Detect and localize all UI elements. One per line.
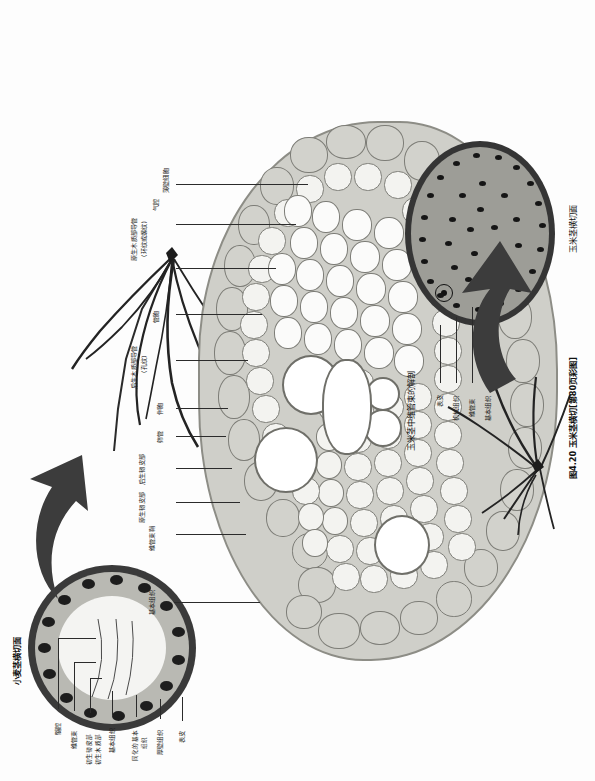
- cell: [268, 253, 296, 285]
- cell: [366, 125, 404, 161]
- cell: [242, 283, 270, 311]
- wheat-plant-illustration: [22, 239, 212, 559]
- cell: [342, 209, 372, 241]
- bundle-dot: [495, 155, 502, 160]
- cell: [326, 125, 366, 159]
- bundle-dot: [421, 259, 428, 264]
- cell: [252, 395, 280, 423]
- cell: [324, 163, 352, 191]
- bundle-dot: [513, 165, 520, 170]
- leader-line: [176, 268, 276, 269]
- wheat-vascular-bundle: [38, 643, 51, 653]
- bundle-dot: [471, 251, 478, 256]
- cell: [274, 317, 302, 349]
- bundle-dot: [453, 161, 460, 166]
- bundle-dot: [515, 243, 522, 248]
- wheat-vascular-bundle: [172, 627, 185, 637]
- cell: [320, 233, 348, 265]
- leader-line: [160, 699, 161, 719]
- wheat-inset-title: 小麦茎横切面: [10, 637, 22, 685]
- cell: [242, 339, 270, 367]
- maize-label-metaphloem: 后生韧皮部: [138, 454, 145, 485]
- cell: [290, 137, 328, 173]
- bundle-dot: [437, 175, 444, 180]
- bundle-dot: [427, 193, 434, 198]
- rotated-plate: 小麦茎横切面: [0, 0, 595, 781]
- cell: [346, 481, 374, 509]
- metaxylem-vessel-large: [254, 427, 318, 493]
- cell: [356, 273, 386, 305]
- wheat-label-sclerenchyma: 厚壁组织: [156, 730, 163, 755]
- cell: [318, 613, 360, 649]
- cell: [350, 509, 378, 537]
- maize-label-parenchyma: 薄壁细胞: [162, 168, 169, 193]
- bundle-dot: [467, 227, 474, 232]
- figure-page: 小麦茎横切面: [0, 0, 595, 781]
- bundle-dot: [535, 201, 542, 206]
- wheat-vascular-bundle: [82, 579, 95, 589]
- bundle-dot: [529, 269, 536, 274]
- bundle-dot: [459, 193, 466, 198]
- leader-line: [176, 314, 262, 315]
- leader-line: [90, 679, 91, 713]
- cell: [258, 227, 286, 255]
- wheat-vascular-bundle: [112, 711, 125, 721]
- cell: [326, 535, 354, 563]
- cell: [316, 451, 342, 479]
- cell: [350, 241, 380, 273]
- cell: [290, 227, 318, 259]
- cell: [326, 265, 354, 297]
- cell: [284, 195, 312, 227]
- cell: [240, 311, 268, 339]
- wheat-label-protoxylem: 初生木质部: [95, 734, 102, 765]
- bundle-dot: [419, 237, 426, 242]
- cell: [374, 449, 402, 477]
- air-cavity: [322, 359, 372, 455]
- leader-line: [176, 534, 246, 535]
- wheat-vascular-bundle: [42, 617, 55, 627]
- bundle-dot: [449, 217, 456, 222]
- wheat-vascular-bundle: [110, 575, 123, 585]
- figure-caption: 图4.20 玉米茎横切[第80页彩图]: [566, 357, 578, 479]
- bundle-dot: [427, 279, 434, 284]
- wheat-vascular-bundle: [60, 693, 73, 703]
- bundle-dot: [501, 193, 508, 198]
- maize-label-protoxylem-vessel: 原生木质部导管: [130, 218, 137, 261]
- wheat-label-ground-tissue: 基本组织: [108, 728, 115, 753]
- cell: [364, 337, 394, 369]
- maize-plant-illustration: [420, 285, 580, 565]
- maize-inset-title: 玉米茎横切面: [566, 205, 578, 253]
- maize-label-companion-cell: 伴胞: [156, 403, 163, 415]
- bundle-dot: [473, 153, 480, 158]
- leader-line: [74, 663, 75, 711]
- wheat-label-vascular-bundle: 维管束: [70, 730, 77, 749]
- maize-label-protophloem: 原生韧皮部: [138, 492, 145, 523]
- leader-line: [176, 502, 240, 503]
- wheat-vascular-bundle: [140, 701, 153, 711]
- bundle-dot: [477, 207, 484, 212]
- maize-label-ground-tissue: 基本组织: [148, 590, 155, 615]
- leader-line: [176, 436, 226, 437]
- maize-label-tracheid: 管胞: [152, 311, 159, 323]
- cell: [300, 291, 328, 323]
- cell: [400, 601, 438, 635]
- cell: [318, 479, 344, 507]
- cell: [286, 595, 322, 629]
- maize-label-metaxylem-pitted: (孔纹): [140, 355, 147, 373]
- bundle-dot: [491, 225, 498, 230]
- cell: [304, 323, 332, 355]
- cell: [322, 507, 348, 535]
- maize-label-protoxylem-type: (环纹或螺纹): [140, 221, 147, 257]
- cell: [302, 529, 328, 557]
- cell: [330, 297, 358, 329]
- wheat-label-assimilating: 同化的基本: [132, 730, 139, 761]
- cell: [360, 611, 400, 645]
- bundle-dot: [527, 181, 534, 186]
- leader-line: [112, 691, 113, 715]
- leader-line: [58, 639, 59, 709]
- cell: [246, 367, 274, 395]
- wheat-pith-strands: [86, 615, 146, 701]
- bundle-dot: [451, 265, 458, 270]
- leader-line: [176, 224, 296, 225]
- cell: [436, 581, 472, 617]
